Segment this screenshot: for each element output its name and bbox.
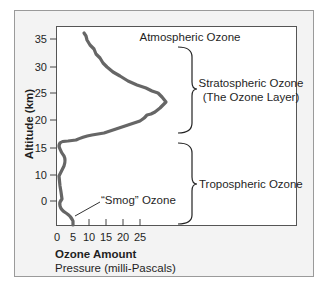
x-axis-tick-labels: 0 5 10 15 20 25	[54, 231, 146, 243]
y-tick-label: 0	[41, 195, 47, 207]
y-axis-label: Altitude (km)	[23, 89, 35, 159]
y-axis-ticks	[50, 39, 57, 201]
y-tick-label: 35	[35, 33, 47, 45]
atmospheric-ozone-label: Atmospheric Ozone	[140, 31, 241, 43]
x-tick-label: 20	[117, 231, 129, 243]
y-tick-label: 25	[35, 87, 47, 99]
plot-area	[57, 27, 297, 226]
ozone-chart: 35 30 25 20 15 10 0 Altitude (km) 0 5 10…	[0, 0, 326, 287]
x-tick-label: 15	[100, 231, 112, 243]
y-tick-label: 10	[35, 169, 47, 181]
ozone-layer-label: (The Ozone Layer)	[203, 91, 300, 103]
tropospheric-ozone-label: Tropospheric Ozone	[199, 178, 303, 190]
x-tick-label: 10	[83, 231, 95, 243]
y-tick-label: 20	[35, 114, 47, 126]
x-axis-subtitle: Pressure (milli-Pascals)	[55, 262, 176, 274]
x-tick-label: 0	[54, 231, 60, 243]
x-axis-title: Ozone Amount	[55, 248, 137, 260]
x-tick-label: 25	[134, 231, 146, 243]
x-tick-label: 5	[70, 231, 76, 243]
smog-ozone-label: “Smog” Ozone	[101, 194, 176, 206]
stratospheric-ozone-label: Stratospheric Ozone	[199, 77, 304, 89]
y-tick-label: 15	[35, 142, 47, 154]
y-tick-label: 30	[35, 61, 47, 73]
y-axis-tick-labels: 35 30 25 20 15 10 0	[35, 33, 47, 207]
